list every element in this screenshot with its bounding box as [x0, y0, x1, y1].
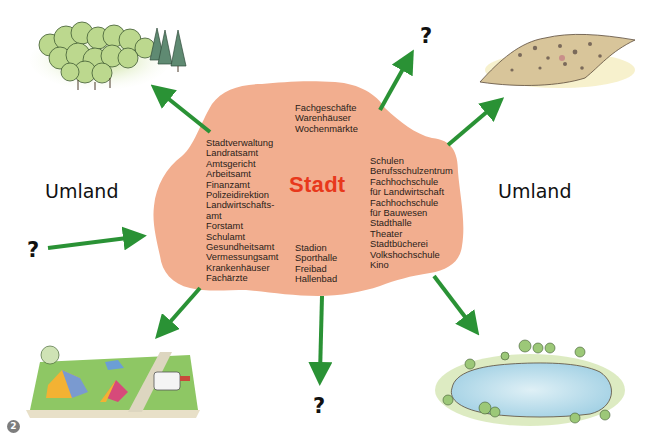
arrow-to-campsite	[163, 288, 200, 330]
city-title: Stadt	[289, 172, 346, 198]
arrow-to-bottom-question	[320, 296, 322, 374]
forest-icon	[30, 22, 186, 90]
umland-label-right: Umland	[498, 180, 571, 202]
list-item: Kino	[370, 260, 453, 270]
list-item: Wochenmärkte	[295, 124, 358, 134]
lake-icon	[435, 340, 625, 426]
question-mark-top: ?	[420, 24, 432, 48]
list-item: Hallenbad	[295, 274, 337, 284]
question-mark-left: ?	[27, 238, 39, 262]
question-mark-bottom: ?	[313, 394, 325, 418]
umland-label-left: Umland	[45, 180, 118, 202]
city-trade-list: Fachgeschäfte Warenhäuser Wochenmärkte	[295, 103, 358, 134]
city-administration-list: Stadtverwaltung Landratsamt Amtsgericht …	[206, 138, 278, 284]
campsite-icon	[26, 346, 200, 418]
list-item: Fachärzte	[206, 273, 278, 283]
arrow-from-left-question	[48, 237, 135, 248]
arrow-to-quarry	[448, 105, 495, 145]
figure-number-badge: 2	[7, 420, 20, 433]
arrow-to-forest	[160, 92, 210, 132]
gravel-pit-icon	[480, 34, 635, 88]
arrow-to-lake	[434, 276, 472, 326]
diagram-canvas	[0, 0, 655, 442]
arrow-to-top-question	[380, 60, 408, 110]
city-sports-list: Stadion Sporthalle Freibad Hallenbad	[295, 243, 337, 285]
city-education-culture-list: Schulen Berufsschulzentrum Fachhochschul…	[370, 156, 453, 270]
